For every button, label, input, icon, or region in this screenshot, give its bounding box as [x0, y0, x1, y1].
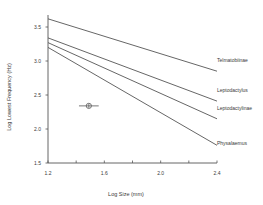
y-axis-title: Log Lowest Frequency (Hz) — [6, 63, 12, 131]
series-line-leptodactylus — [48, 38, 217, 101]
series-line-telmatobiinae — [48, 19, 217, 71]
x-axis-title: Log Size (mm) — [108, 191, 144, 197]
y-tick-label: 3.5 — [34, 24, 41, 30]
y-tick-label: 2.5 — [34, 92, 41, 98]
x-tick-label: 1.6 — [101, 170, 108, 176]
series-label-telmatobiinae: Telmatobiinae — [217, 57, 248, 63]
series-group: TelmatobiinaeLeptodactylusLeptodactylina… — [48, 19, 252, 146]
y-tick-label: 1.5 — [34, 160, 41, 166]
chart: 1.21.62.02.41.52.02.53.03.5 Telmatobiina… — [0, 0, 263, 205]
x-tick-label: 2.4 — [214, 170, 221, 176]
series-label-leptodactylus: Leptodactylus — [217, 87, 248, 93]
x-tick-label: 2.0 — [157, 170, 164, 176]
series-line-physalaemus — [48, 47, 217, 145]
series-label-physalaemus: Physalaemus — [217, 140, 248, 146]
points-group — [79, 103, 99, 108]
axes: 1.21.62.02.41.52.02.53.03.5 — [34, 15, 221, 176]
series-label-leptodactylinae: Leptodactylinae — [217, 105, 252, 111]
y-tick-label: 2.0 — [34, 126, 41, 132]
x-tick-label: 1.2 — [45, 170, 52, 176]
y-tick-label: 3.0 — [34, 58, 41, 64]
series-line-leptodactylinae — [48, 43, 217, 119]
